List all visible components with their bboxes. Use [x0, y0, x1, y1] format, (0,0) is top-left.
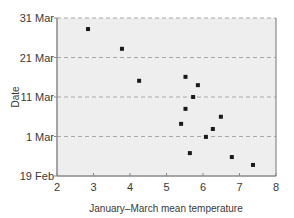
x-tick-label: 7	[236, 181, 242, 193]
x-tick-label: 5	[163, 181, 169, 193]
x-tick-label: 8	[273, 181, 279, 193]
data-point	[86, 27, 90, 31]
x-axis-title: January–March mean temperature	[89, 203, 243, 214]
data-point	[191, 95, 195, 99]
data-point	[183, 75, 187, 79]
data-point	[230, 155, 234, 159]
x-tick-label: 2	[54, 181, 60, 193]
data-point	[137, 79, 141, 83]
y-tick-label: 31 Mar	[20, 12, 55, 24]
x-tick-label: 6	[200, 181, 206, 193]
data-point	[188, 151, 192, 155]
data-point	[183, 107, 187, 111]
data-point	[219, 115, 223, 119]
data-point	[120, 47, 124, 51]
x-tick-label: 4	[127, 181, 133, 193]
data-point	[251, 163, 255, 167]
scatter-chart: 2345678 19 Feb1 Mar11 Mar21 Mar31 Mar Ja…	[0, 0, 294, 218]
plot-area	[57, 18, 276, 176]
data-point	[204, 135, 208, 139]
x-tick-label: 3	[90, 181, 96, 193]
data-point	[211, 127, 215, 131]
data-point	[179, 122, 183, 126]
y-tick-label: 21 Mar	[20, 52, 55, 64]
y-tick-label: 1 Mar	[26, 131, 54, 143]
y-axis-ticks: 19 Feb1 Mar11 Mar21 Mar31 Mar	[20, 12, 57, 182]
data-point	[196, 83, 200, 87]
y-tick-label: 11 Mar	[21, 91, 55, 103]
y-tick-label: 19 Feb	[20, 170, 54, 182]
y-axis-title: Date	[10, 86, 21, 108]
